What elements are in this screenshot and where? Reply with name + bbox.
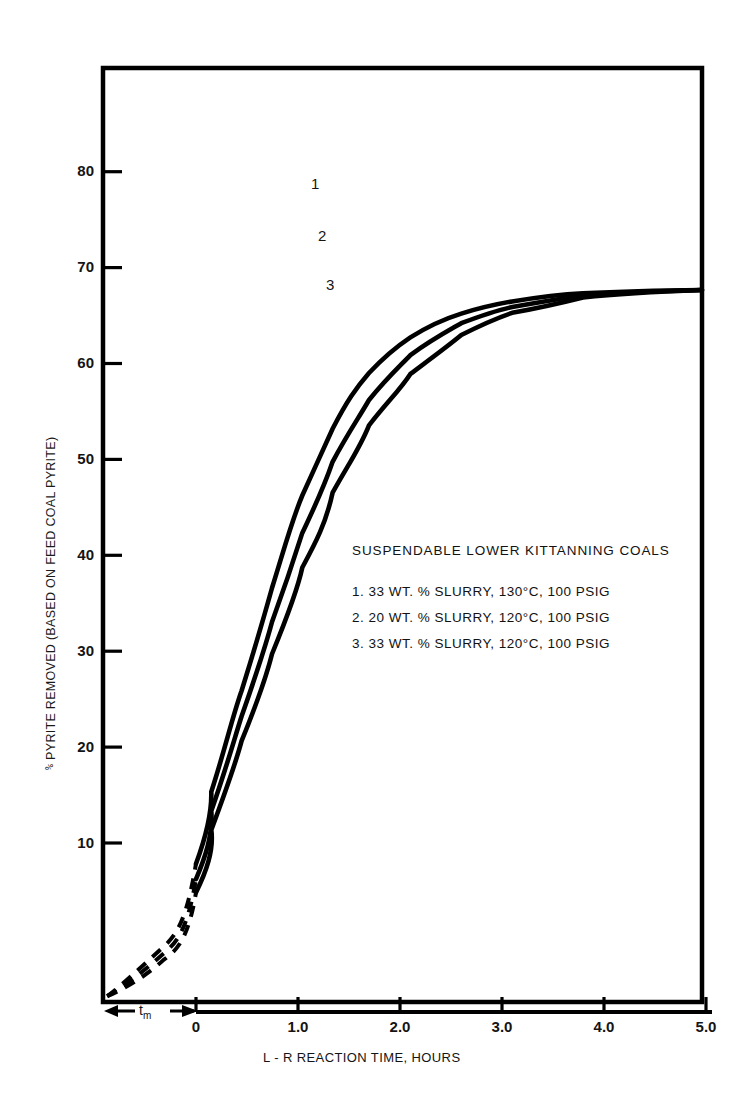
tm-marker-label: tm [139,1002,151,1021]
legend-title: SUSPENDABLE LOWER KITTANNING COALS [352,543,682,558]
x-tick-label-4: 4.0 [579,1018,629,1035]
curve-label-3: 3 [326,276,334,293]
x-tick-label-5: 5.0 [681,1018,731,1035]
legend-item-3: 3. 33 WT. % SLURRY, 120°C, 100 PSIG [352,636,682,651]
y-tick-label-30: 30 [54,642,94,659]
x-tick-label-2: 2.0 [375,1018,425,1035]
curve-label-1: 1 [311,175,319,192]
y-tick-label-10: 10 [54,834,94,851]
x-axis-title: L - R REACTION TIME, HOURS [263,1050,460,1065]
x-tick-label-1: 1.0 [273,1018,323,1035]
legend-item-2: 2. 20 WT. % SLURRY, 120°C, 100 PSIG [352,610,682,625]
x-tick-label-0: 0 [176,1018,216,1035]
y-tick-label-40: 40 [54,546,94,563]
tm-marker-subscript: m [143,1010,151,1021]
y-tick-label-60: 60 [54,354,94,371]
plot-frame [103,68,702,1002]
figure-container: % PYRITE REMOVED (BASED ON FEED COAL PYR… [0,0,750,1110]
curve-label-2: 2 [318,227,326,244]
y-tick-label-20: 20 [54,738,94,755]
y-tick-label-50: 50 [54,450,94,467]
tm-arrow-head-left [104,1005,118,1017]
x-tick-label-3: 3.0 [477,1018,527,1035]
y-tick-label-80: 80 [54,162,94,179]
y-tick-label-70: 70 [54,258,94,275]
legend-item-1: 1. 33 WT. % SLURRY, 130°C, 100 PSIG [352,584,682,599]
legend: SUSPENDABLE LOWER KITTANNING COALS 1. 33… [352,543,682,662]
